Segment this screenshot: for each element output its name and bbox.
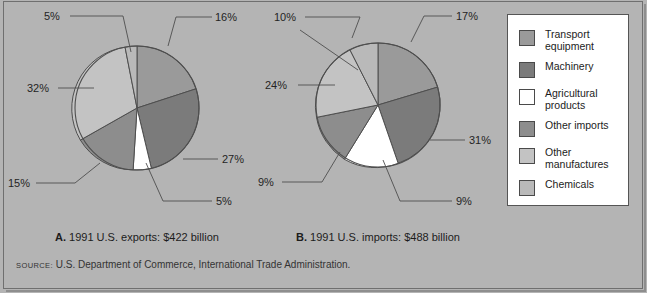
leader-a-agricultural: [146, 163, 212, 201]
legend-swatch-machinery: [519, 62, 535, 78]
legend-swatch-other-imports: [519, 121, 535, 137]
legend-label-agricultural-products: Agricultural products: [545, 88, 598, 111]
legend-label-other-imports: Other imports: [545, 120, 609, 132]
legend-item-other-manufactures[interactable]: Other manufactures: [519, 147, 609, 170]
leader-b-transport: [411, 16, 452, 42]
caption-chart-a: A. 1991 U.S. exports: $422 billion: [55, 231, 219, 243]
pie-b-label-agricultural: 9%: [456, 195, 472, 207]
leader-a-transport: [168, 17, 212, 46]
caption-a-letter: A.: [55, 231, 66, 243]
pie-a-label-agricultural: 5%: [216, 195, 232, 207]
source-text: U.S. Department of Commerce, Internation…: [56, 259, 351, 270]
legend-swatch-chemicals: [519, 180, 535, 196]
pie-b-label-machinery: 31%: [469, 134, 491, 146]
leader-a-other-imports: [36, 163, 100, 183]
legend-item-machinery[interactable]: Machinery: [519, 61, 593, 78]
pie-b-label-other-imports: 9%: [258, 176, 274, 188]
caption-a-text: 1991 U.S. exports: $422 billion: [69, 231, 219, 243]
legend-label-chemicals: Chemicals: [545, 179, 594, 191]
source-label: SOURCE:: [16, 261, 53, 270]
legend-label-other-manufactures: Other manufactures: [545, 147, 609, 170]
pie-b-label-transport: 17%: [456, 10, 478, 22]
legend-item-transport-equipment[interactable]: Transport equipment: [519, 29, 594, 52]
source-note: SOURCE: U.S. Department of Commerce, Int…: [16, 259, 350, 270]
legend-swatch-other-manufactures: [519, 148, 535, 164]
pie-a-label-other-manufactures: 32%: [27, 82, 49, 94]
leader-b-chemicals: [305, 17, 360, 38]
pie-a-label-transport: 16%: [215, 11, 237, 23]
leader-b-agricultural: [383, 160, 452, 201]
legend-panel: Transport equipment Machinery Agricultur…: [507, 14, 629, 206]
legend-swatch-agricultural-products: [519, 89, 535, 105]
pie-chart-figure: 5% 16% 27% 5% 15% 32% 10% 17% 31% 9% 9% …: [0, 0, 647, 293]
legend-swatch-transport-equipment: [519, 30, 535, 46]
leader-b-other-imports: [282, 152, 340, 182]
pie-chart-b: [315, 43, 440, 168]
pie-b-label-chemicals: 10%: [274, 11, 296, 23]
pie-a-label-machinery: 27%: [222, 153, 244, 165]
pie-a-label-chemicals: 5%: [44, 10, 60, 22]
pie-b-label-other-manufactures: 24%: [265, 79, 287, 91]
pie-a-label-other-imports: 15%: [8, 177, 30, 189]
legend-item-chemicals[interactable]: Chemicals: [519, 179, 594, 196]
legend-label-machinery: Machinery: [545, 61, 593, 73]
legend-label-transport-equipment: Transport equipment: [545, 29, 594, 52]
caption-b-letter: B.: [296, 231, 307, 243]
legend-item-other-imports[interactable]: Other imports: [519, 120, 609, 137]
leader-a-chemicals: [70, 16, 131, 52]
legend-item-agricultural-products[interactable]: Agricultural products: [519, 88, 598, 111]
caption-b-text: 1991 U.S. imports: $488 billion: [310, 231, 460, 243]
caption-chart-b: B. 1991 U.S. imports: $488 billion: [296, 231, 460, 243]
pie-chart-a: [72, 46, 199, 170]
